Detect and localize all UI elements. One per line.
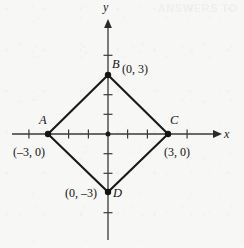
vertex-point-b — [105, 72, 111, 78]
vertex-label-d: D — [113, 186, 122, 201]
vertex-label-a: A — [39, 113, 47, 128]
x-axis-label: x — [224, 127, 229, 142]
coord-label-a: (–3, 0) — [13, 145, 45, 160]
y-axis-label: y — [103, 0, 108, 15]
origin-point — [106, 132, 111, 137]
coord-label-c: (3, 0) — [164, 145, 190, 160]
vertex-point-d — [105, 189, 111, 195]
vertex-label-c: C — [170, 113, 178, 128]
coordinate-plane-figure — [0, 0, 244, 248]
y-axis-arrowhead — [104, 19, 112, 28]
vertex-point-a — [45, 131, 51, 137]
vertex-point-c — [165, 131, 171, 137]
coord-label-b: (0, 3) — [122, 62, 148, 77]
x-axis-arrowhead — [213, 130, 222, 138]
coord-label-d: (0, –3) — [65, 186, 97, 201]
vertex-label-b: B — [112, 57, 120, 72]
